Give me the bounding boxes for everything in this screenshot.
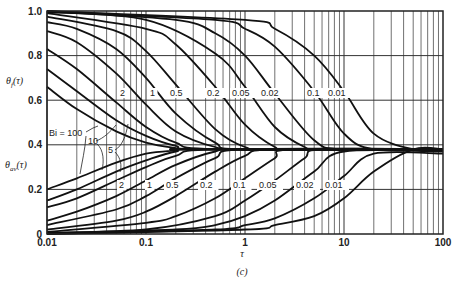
- curve-label: 0.05: [259, 180, 277, 190]
- y-tick-label: 0.2: [28, 184, 42, 195]
- bi-5-label: 5: [108, 145, 113, 155]
- figure-caption: (c): [236, 266, 248, 278]
- y-tick-label: 0.8: [28, 50, 42, 61]
- curve-label: 1: [150, 88, 155, 98]
- curve-label: 0.1: [233, 180, 246, 190]
- x-axis-ticks: 0.010.1110100: [37, 237, 452, 248]
- x-tick-label: 0.1: [139, 237, 153, 248]
- y-label-bottom: θav(τ): [5, 159, 27, 173]
- curve-label: 0.2: [200, 180, 213, 190]
- curve-label: 0.02: [261, 88, 279, 98]
- bi-100-leader-top: [86, 126, 98, 132]
- curve-label: 0.5: [170, 88, 183, 98]
- y-tick-label: 0.4: [28, 139, 42, 150]
- curve-label: 0.5: [166, 180, 179, 190]
- bi-100-leader-bottom: [80, 136, 86, 174]
- x-tick-label: 10: [338, 237, 350, 248]
- x-tick-label: 0.01: [37, 237, 57, 248]
- x-tick-label: 100: [435, 237, 452, 248]
- curve-label: 0.2: [207, 88, 220, 98]
- y-axis-ticks: 00.20.40.60.81.0: [28, 6, 42, 240]
- curve-label: 0.01: [325, 180, 343, 190]
- x-tick-label: 1: [242, 237, 248, 248]
- bi-100-label: Bi = 100: [49, 128, 82, 138]
- curve-label: 0.02: [296, 180, 314, 190]
- curve-label: 2: [119, 180, 124, 190]
- curve-label: 1: [147, 180, 152, 190]
- curve-label: 0.01: [328, 88, 346, 98]
- bi-5-leader-top: [115, 124, 128, 150]
- y-label-top: θf(τ): [6, 75, 24, 89]
- y-tick-label: 0.6: [28, 95, 42, 106]
- bi-10-leader-top: [96, 125, 116, 141]
- curve-label: 0.1: [307, 88, 320, 98]
- curve-label: 2: [120, 88, 125, 98]
- y-tick-label: 1.0: [28, 6, 42, 17]
- heisler-chart: 00.20.40.60.81.0 0.010.1110100 θf(τ) θav…: [0, 0, 456, 282]
- curve-label: 0.05: [232, 88, 250, 98]
- bi-10-leader-bottom: [97, 144, 103, 170]
- x-axis-label: τ: [240, 248, 244, 259]
